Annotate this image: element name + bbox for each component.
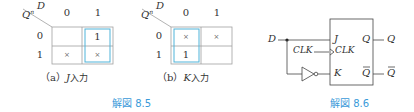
kmap-a-corner-top: D: [37, 0, 45, 11]
pin-j-label: J: [334, 33, 338, 44]
pin-qbar-label: Q: [362, 67, 370, 78]
kmap-a-col-header-1: 1: [88, 7, 108, 18]
kmap-a-row-header-0: 0: [30, 30, 50, 41]
kmap-a-row-header-1: 1: [30, 49, 50, 60]
kmap-a-caption: （a）J入力: [40, 69, 88, 84]
figure-8-5-caption: 解図 8.5: [112, 95, 151, 110]
output-q-label: Q: [387, 33, 395, 44]
kmap-b-col-header-1: 1: [207, 7, 227, 18]
pin-k-label: K: [334, 67, 341, 78]
kmap-b-row-header-1: 1: [149, 49, 169, 60]
input-d-label: D: [268, 33, 276, 44]
kmap-b-cell-1-0: 1: [171, 46, 201, 64]
kmap-a-cell-1-1: ×: [82, 46, 113, 64]
kmap-b-corner-left: Qn: [141, 8, 153, 20]
kmap-a-col-header-0: 0: [57, 7, 77, 18]
kmap-b-row-header-0: 0: [149, 30, 169, 41]
kmap-a-cell-1-0: ×: [52, 46, 82, 64]
kmap-a-corner-left: Qn: [22, 8, 34, 20]
kmap-b-col-header-0: 0: [176, 7, 196, 18]
kmap-b-corner-top: D: [156, 0, 164, 11]
input-clk-label: CLK: [293, 45, 313, 55]
output-qbar-label: Q: [387, 67, 395, 78]
figure-8-6-caption: 解図 8.6: [330, 95, 369, 110]
kmap-b-cell-0-0: ×: [171, 28, 201, 46]
kmap-b-caption: （b）K入力: [157, 69, 209, 84]
kmap-b-cell-0-1: ×: [201, 28, 232, 46]
pin-clk-label: CLK: [335, 45, 355, 55]
kmap-a-cell-0-1: 1: [82, 28, 113, 46]
pin-q-label: Q: [362, 33, 370, 44]
